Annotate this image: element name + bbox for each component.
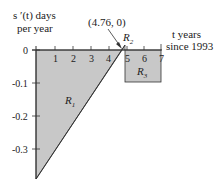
y-tick-neg01: -0.1 (12, 78, 28, 89)
y-tick-neg03: -0.3 (12, 144, 28, 155)
x-tick-6: 6 (142, 53, 147, 64)
x-tick-1: 1 (53, 53, 58, 64)
x-tick-7: 7 (159, 53, 164, 64)
x-tick-4: 4 (106, 53, 111, 64)
y-tick-neg02: -0.2 (12, 111, 28, 122)
arrowhead-icon (116, 42, 122, 49)
y-axis-label-line2: per year (17, 22, 53, 34)
x-axis-label-line1: t years (172, 28, 201, 40)
y-axis-label-line1: s ′(t) days (13, 9, 56, 22)
region-label-r2: R2 (122, 31, 134, 46)
point-label: (4.76, 0) (88, 16, 126, 29)
x-tick-5: 5 (125, 53, 130, 64)
y-tick-0: 0 (23, 45, 28, 56)
x-tick-marks (55, 44, 161, 50)
x-axis-label-line2: since 1993 (166, 40, 214, 52)
area-diagram: 1 2 3 4 5 6 7 0 -0.1 -0.2 -0.3 s ′(t) da… (0, 0, 219, 189)
x-tick-2: 2 (71, 53, 76, 64)
x-tick-3: 3 (89, 53, 94, 64)
